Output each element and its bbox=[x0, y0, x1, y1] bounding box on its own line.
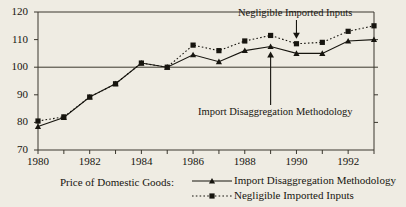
x-tick-1986: 1986 bbox=[173, 156, 213, 167]
y-tick-110: 110 bbox=[2, 34, 28, 45]
annotation-negligible-imported-inputs: Negligible Imported Inputs bbox=[238, 7, 352, 18]
y-tick-90: 90 bbox=[2, 89, 28, 100]
x-tick-1980: 1980 bbox=[18, 156, 58, 167]
y-tick-100: 100 bbox=[2, 61, 28, 72]
chart-figure: 708090100110120 198019821984198619881990… bbox=[0, 0, 406, 207]
annotation-import-disaggregation-methodology: Import Disaggregation Methodology bbox=[198, 106, 353, 117]
legend-item-label: Import Disaggregation Methodology bbox=[234, 174, 396, 186]
legend-item-label: Negligible Imported Inputs bbox=[234, 189, 354, 201]
x-tick-1984: 1984 bbox=[121, 156, 161, 167]
chart-annotation-arrows bbox=[267, 20, 300, 105]
chart-axes bbox=[34, 12, 378, 154]
legend-title: Price of Domestic Goods: bbox=[60, 176, 174, 188]
y-tick-80: 80 bbox=[2, 116, 28, 127]
x-tick-1992: 1992 bbox=[328, 156, 368, 167]
x-tick-1990: 1990 bbox=[276, 156, 316, 167]
y-tick-70: 70 bbox=[2, 144, 28, 155]
x-tick-1982: 1982 bbox=[70, 156, 110, 167]
legend-marker-samples bbox=[192, 178, 232, 199]
y-tick-120: 120 bbox=[2, 6, 28, 17]
x-tick-1988: 1988 bbox=[225, 156, 265, 167]
